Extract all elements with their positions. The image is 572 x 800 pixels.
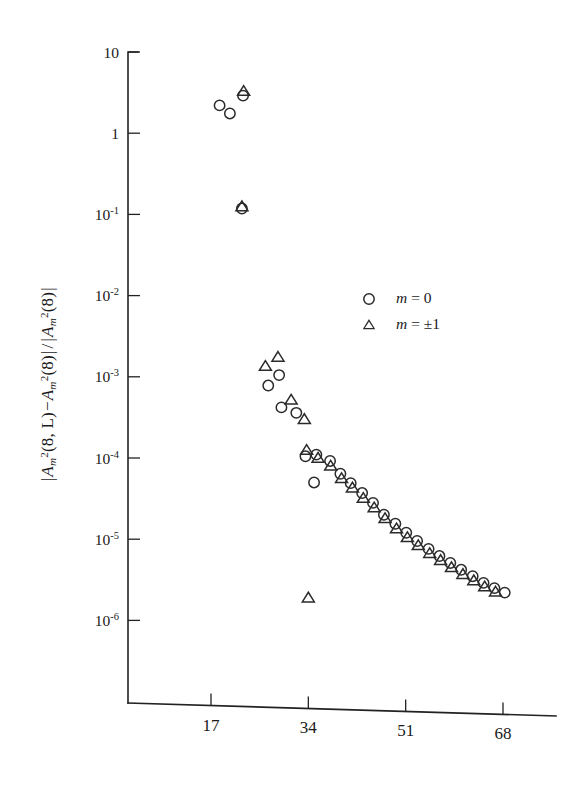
point-circle-4 bbox=[263, 380, 273, 390]
ylabel-m-second: m bbox=[46, 381, 58, 389]
point-circle-10 bbox=[309, 477, 319, 487]
point-circle-3 bbox=[237, 203, 247, 213]
x-tick-label-0: 17 bbox=[203, 716, 221, 735]
point-triangle-3 bbox=[272, 352, 284, 362]
y-tick-label-5: 10-4 bbox=[95, 449, 120, 467]
x-tick-label-3: 68 bbox=[495, 724, 512, 743]
ylabel-sq-numerator: 2 bbox=[38, 452, 50, 458]
ylabel-denom-abs-open: | bbox=[38, 337, 58, 343]
legend-label-0: m= 0 bbox=[396, 289, 432, 306]
point-triangle-8 bbox=[312, 452, 324, 462]
plot-axes bbox=[128, 52, 556, 716]
series-m-pm1 bbox=[236, 86, 502, 602]
point-circle-7 bbox=[291, 408, 301, 418]
ylabel-denom-abs-close: | bbox=[38, 286, 58, 292]
ylabel-denom-arg: (8) bbox=[38, 292, 57, 312]
y-tick-label-7: 10-6 bbox=[95, 611, 119, 629]
legend-marker-circle bbox=[364, 294, 374, 304]
ylabel-arg-l: (8, L) bbox=[38, 412, 57, 452]
point-circle-23 bbox=[456, 565, 466, 575]
y-tick-label-2: 10-1 bbox=[95, 205, 119, 223]
y-tick-label-0: 10 bbox=[104, 44, 120, 61]
ylabel-slash: / bbox=[38, 343, 58, 350]
ylabel-minus: − bbox=[38, 400, 58, 412]
ylabel-arg-0: (8) bbox=[38, 355, 57, 375]
ylabel-a-numerator: A bbox=[38, 466, 57, 477]
plot-canvas: 10110-110-210-310-410-510-6 17345168 m= … bbox=[0, 0, 572, 800]
data-markers bbox=[214, 86, 510, 602]
ylabel-a-denominator: A bbox=[38, 326, 57, 337]
x-tick-label-2: 51 bbox=[397, 721, 414, 740]
ylabel-m-denominator: m bbox=[46, 318, 58, 326]
ylabel-abs-close: | bbox=[38, 350, 58, 356]
y-axis-line bbox=[128, 52, 138, 703]
y-axis-label: |Am2(8, L)−Am2(8)|/|Am2(8)| bbox=[38, 124, 59, 644]
ylabel-sq-second: 2 bbox=[38, 376, 50, 382]
legend-marker-triangle bbox=[364, 320, 374, 328]
point-triangle-4 bbox=[285, 394, 297, 404]
ylabel-abs-open: | bbox=[38, 477, 58, 483]
point-triangle-7 bbox=[302, 592, 314, 602]
y-tick-label-3: 10-2 bbox=[95, 286, 119, 304]
y-axis-tick-labels: 10110-110-210-310-410-510-6 bbox=[95, 44, 120, 629]
x-axis-tick-labels: 17345168 bbox=[203, 716, 512, 744]
point-circle-1 bbox=[225, 108, 235, 118]
point-circle-5 bbox=[274, 370, 284, 380]
ylabel-m-numerator: m bbox=[46, 458, 58, 466]
y-tick-label-6: 10-5 bbox=[95, 530, 119, 548]
point-circle-0 bbox=[214, 100, 224, 110]
ylabel-a-second: A bbox=[38, 390, 57, 401]
series-m0 bbox=[214, 90, 510, 597]
chart-legend: m= 0m= ±1 bbox=[364, 289, 440, 332]
y-tick-label-4: 10-3 bbox=[95, 367, 119, 385]
scatter-plot-figure: 10110-110-210-310-410-510-6 17345168 m= … bbox=[0, 0, 572, 800]
y-axis-ticks bbox=[128, 52, 140, 620]
point-triangle-2 bbox=[259, 361, 271, 371]
y-tick-label-1: 1 bbox=[111, 125, 119, 142]
legend-label-1: m= ±1 bbox=[396, 315, 440, 332]
x-tick-label-1: 34 bbox=[300, 718, 318, 737]
x-axis-line bbox=[128, 703, 556, 716]
x-axis-ticks bbox=[211, 694, 503, 715]
ylabel-sq-denominator: 2 bbox=[38, 312, 50, 318]
